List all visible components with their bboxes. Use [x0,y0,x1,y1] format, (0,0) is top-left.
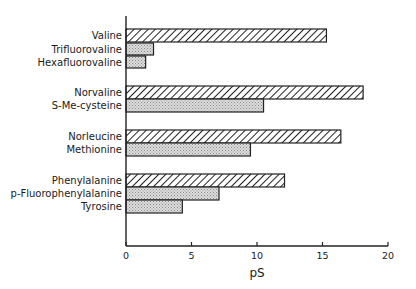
bar-trifluorovaline [126,43,154,55]
bar-tyrosine [126,200,182,213]
category-label: Norleucine [68,131,122,142]
category-label: Trifluorovaline [51,44,122,55]
category-label: Valine [92,30,122,41]
bar-s-me-cysteine [126,99,264,112]
bar-methionine [126,143,250,156]
bar-phenylalanine [126,174,285,187]
x-tick-label: 10 [251,250,263,261]
bar-p-fluorophenylalanine [126,187,219,200]
x-tick-label: 0 [123,250,129,261]
category-label: p-Fluorophenylalanine [11,188,122,199]
bar-norvaline [126,86,363,99]
bar-chart: ValineTrifluorovalineHexafluorovalineNor… [0,0,416,289]
category-label: Hexafluorovaline [38,57,122,68]
x-tick-label: 5 [188,250,194,261]
x-tick-label: 15 [316,250,328,261]
category-labels: ValineTrifluorovalineHexafluorovalineNor… [11,30,122,212]
x-tick-label: 20 [382,250,394,261]
category-label: Norvaline [74,87,122,98]
category-label: Phenylalanine [52,175,122,186]
category-label: Tyrosine [80,201,122,212]
category-label: S-Me-cysteine [52,100,122,111]
bar-hexafluorovaline [126,56,146,68]
category-label: Methionine [66,144,122,155]
bars-layer [126,29,363,213]
bar-norleucine [126,130,341,143]
x-axis-label: pS [249,266,264,280]
bar-valine [126,29,326,42]
